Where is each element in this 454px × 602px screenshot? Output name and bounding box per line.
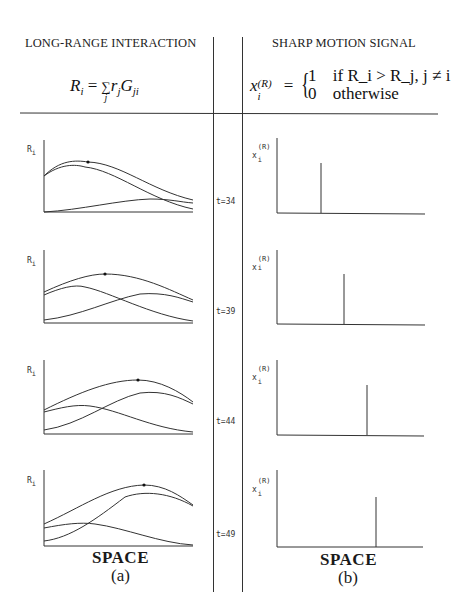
y-label-sup: (R): [258, 255, 271, 263]
left-panel-caption: (a): [111, 566, 130, 586]
diagram-canvas: [0, 0, 454, 602]
peak-marker: [142, 483, 145, 486]
peak-marker: [136, 378, 139, 381]
right-plot-t44: [277, 360, 424, 436]
peak-marker: [86, 160, 89, 163]
right-y-label-t34: x(R)i: [252, 152, 261, 160]
right-y-label-t44: x(R)i: [252, 374, 261, 382]
left-y-label-t44: Ri: [27, 367, 36, 378]
axes: [44, 360, 193, 434]
left-y-label-t34: Ri: [27, 146, 36, 157]
right-bump-curve: [44, 493, 193, 541]
y-label-sub: i: [32, 260, 36, 268]
y-label-sup: (R): [258, 365, 271, 373]
y-label-sup: (R): [258, 477, 271, 485]
axes: [277, 470, 423, 547]
time-label-t34: t=34: [216, 197, 235, 206]
right-plot-t34: [277, 138, 425, 214]
left-plot-t49: [44, 470, 193, 546]
right-plot-t49: [277, 470, 423, 547]
left-y-label-t49: Ri: [27, 477, 36, 488]
axes: [277, 138, 425, 214]
y-label-sub: i: [258, 264, 262, 272]
left-y-label-t39: Ri: [27, 257, 36, 268]
y-label-sub: i: [32, 149, 36, 157]
peak-marker: [103, 272, 106, 275]
left-plot-t44: [44, 360, 193, 434]
y-label-sub: i: [32, 480, 36, 488]
right-plot-t39: [277, 250, 425, 325]
left-x-axis-label: SPACE: [92, 548, 149, 568]
y-label-sub: i: [258, 490, 262, 498]
right-y-label-t49: x(R)i: [252, 486, 261, 494]
axes: [44, 250, 193, 323]
y-label-sub: i: [258, 156, 262, 164]
y-label-sub: i: [32, 370, 36, 378]
right-x-axis-label: SPACE: [320, 550, 377, 570]
sum-curve: [44, 161, 193, 200]
time-label-t39: t=39: [216, 307, 235, 316]
y-label-sub: i: [258, 378, 262, 386]
time-label-t49: t=49: [216, 530, 235, 539]
axes: [44, 140, 193, 212]
header-rule: [20, 113, 438, 114]
right-bump-curve: [44, 199, 193, 212]
left-bump-curve: [44, 523, 193, 545]
y-label-sup: (R): [258, 143, 271, 151]
left-plot-t34: [44, 140, 193, 212]
right-bump-curve: [44, 392, 193, 430]
right-y-label-t39: x(R)i: [252, 264, 261, 272]
left-plot-t39: [44, 250, 193, 323]
time-label-t44: t=44: [216, 417, 235, 426]
left-bump-curve: [44, 405, 193, 432]
right-panel-caption: (b): [338, 568, 358, 588]
axes: [277, 360, 424, 436]
axes: [277, 250, 425, 325]
sum-curve: [44, 485, 193, 524]
